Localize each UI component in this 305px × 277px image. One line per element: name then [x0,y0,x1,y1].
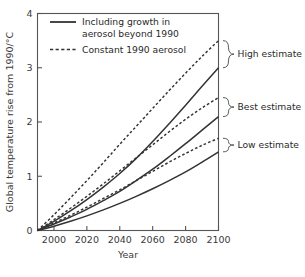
legend-label-dashed: Constant 1990 aerosol [82,44,186,55]
chart-figure: 01234200020202040206020802100YearGlobal … [0,0,305,277]
x-tick-label: 2060 [141,234,165,245]
x-tick-label: 2100 [206,234,230,245]
x-axis-title: Year [117,249,138,260]
y-tick-label: 4 [26,8,32,19]
x-tick-label: 2020 [75,234,99,245]
x-tick-label: 2080 [173,234,197,245]
y-axis-title: Global temperature rise from 1990/°C [4,31,15,212]
estimate-label-2: Low estimate [238,139,300,150]
legend-label-solid-line1: Including growth in [82,16,170,27]
legend-label-solid-line2: aerosol beyond 1990 [82,28,179,39]
estimate-label-0: High estimate [238,48,303,59]
temperature-rise-line-chart: 01234200020202040206020802100YearGlobal … [0,0,305,277]
x-tick-label: 2000 [42,234,66,245]
x-tick-label: 2040 [108,234,132,245]
y-tick-label: 2 [26,116,32,127]
y-tick-label: 0 [26,225,32,236]
estimate-label-1: Best estimate [238,101,302,112]
y-tick-label: 3 [26,62,32,73]
y-tick-label: 1 [26,171,32,182]
